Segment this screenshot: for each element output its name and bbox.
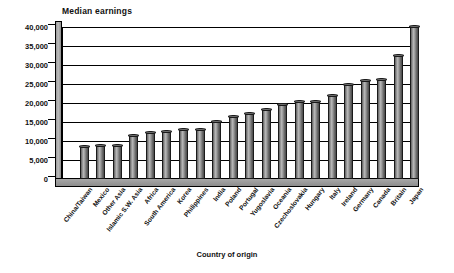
y-axis-tick	[48, 119, 55, 120]
bar-top-cap	[409, 25, 420, 28]
bar[interactable]	[179, 130, 188, 179]
bar[interactable]	[96, 146, 105, 179]
bar[interactable]	[113, 146, 122, 179]
bar-top-cap	[327, 94, 338, 97]
bar-top-cap	[343, 83, 354, 86]
bar-top-cap	[393, 54, 404, 57]
x-axis-category-label: Italy	[328, 186, 342, 201]
x-axis-category-label: Japan	[407, 186, 424, 205]
y-axis-tick-label: 5,000	[0, 156, 48, 165]
bar[interactable]	[361, 81, 370, 179]
x-axis-category-label: China/Taiwan	[62, 186, 93, 223]
bar[interactable]	[328, 95, 337, 179]
y-axis-labels: 40,00035,00030,00025,00020,00015,00010,0…	[0, 0, 48, 273]
bar[interactable]	[146, 132, 155, 179]
bar[interactable]	[344, 84, 353, 179]
chart-title: Median earnings	[62, 6, 132, 16]
y-axis-tick-label: 0	[0, 175, 48, 184]
bar[interactable]	[80, 146, 89, 179]
y-axis-tick	[48, 62, 55, 63]
bar-top-cap	[310, 100, 321, 103]
bar[interactable]	[311, 101, 320, 179]
y-axis-tick-label: 10,000	[0, 137, 48, 146]
x-axis-category-label: India	[211, 186, 226, 202]
bar[interactable]	[278, 105, 287, 179]
bar-top-cap	[277, 103, 288, 106]
y-axis-tick-label: 35,000	[0, 42, 48, 51]
bar-top-cap	[195, 128, 206, 131]
y-axis-tick	[48, 176, 55, 177]
bar[interactable]	[162, 132, 171, 180]
x-axis-title: Country of origin	[0, 250, 454, 259]
bar[interactable]	[394, 56, 403, 180]
bar[interactable]	[262, 110, 271, 179]
bar[interactable]	[229, 116, 238, 179]
chart-left-wall	[55, 21, 62, 179]
bar-top-cap	[376, 78, 387, 81]
y-axis-tick	[48, 81, 55, 82]
median-earnings-bar-chart: Median earnings 40,00035,00030,00025,000…	[0, 0, 454, 273]
y-axis-tick-label: 25,000	[0, 80, 48, 89]
bar-series	[62, 27, 419, 179]
y-axis-tick	[48, 43, 55, 44]
x-axis-category-label: Britain	[389, 186, 407, 207]
bar[interactable]	[410, 26, 419, 179]
bar-top-cap	[228, 115, 239, 118]
y-axis-tick-label: 40,000	[0, 23, 48, 32]
bar-top-cap	[79, 145, 90, 148]
y-axis-tick-label: 15,000	[0, 118, 48, 127]
bar[interactable]	[295, 102, 304, 179]
y-axis-tick	[48, 157, 55, 158]
y-axis-tick	[48, 100, 55, 101]
bar[interactable]	[196, 129, 205, 179]
y-axis-tick-label: 20,000	[0, 99, 48, 108]
bar[interactable]	[129, 135, 138, 179]
bar[interactable]	[245, 114, 254, 179]
bar[interactable]	[212, 121, 221, 179]
bar-top-cap	[211, 120, 222, 123]
y-axis-tick-label: 30,000	[0, 61, 48, 70]
y-axis-tick	[48, 24, 55, 25]
y-axis-tick	[48, 138, 55, 139]
bar-top-cap	[178, 128, 189, 131]
bar-top-cap	[145, 131, 156, 134]
bar[interactable]	[377, 79, 386, 179]
bar-top-cap	[128, 134, 139, 137]
